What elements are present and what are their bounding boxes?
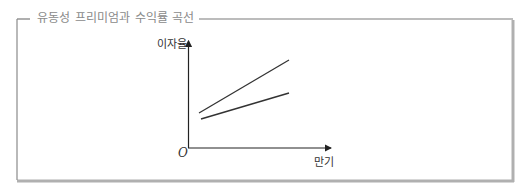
upper-yield-line (199, 60, 289, 113)
origin-label: O (178, 146, 188, 160)
y-axis-label: 이자율 (157, 39, 187, 51)
x-axis-label: 만기 (314, 157, 334, 169)
yield-curve-chart (0, 0, 530, 190)
diagram-frame: 유동성 프리미엄과 수익률 곡선 이자율 만기 O (0, 0, 530, 190)
lower-yield-line (201, 93, 289, 119)
